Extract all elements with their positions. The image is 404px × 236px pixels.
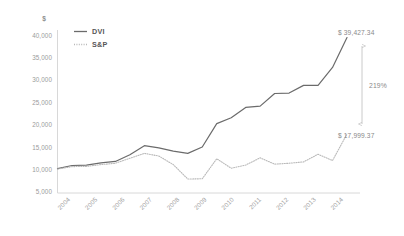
y-tick-label: 15,000 <box>32 144 52 151</box>
x-tick-label: 2013 <box>302 195 317 210</box>
difference-annotation: 219% <box>362 46 387 124</box>
sp-end-value-label: $ 17,999.37 <box>338 132 375 139</box>
x-tick-label: 2012 <box>274 195 289 210</box>
dvi-end-value-label: $ 39,427.34 <box>338 29 375 36</box>
difference-percent-label: 219% <box>369 82 387 89</box>
x-tick-label: 2007 <box>138 195 153 210</box>
x-tick-label: 2010 <box>220 195 235 210</box>
x-tick-label: 2011 <box>247 195 262 210</box>
legend-label-sp: S&P <box>92 40 107 49</box>
y-tick-label: 30,000 <box>32 76 52 83</box>
x-tick-label: 2008 <box>165 195 180 210</box>
chart-legend: DVI S&P <box>74 27 107 49</box>
y-tick-label: 40,000 <box>32 32 52 39</box>
y-axis-unit-label: $ <box>42 15 46 23</box>
x-tick-label: 2006 <box>111 195 126 210</box>
data-line-sp <box>58 134 348 179</box>
y-axis-ticks: 40,000 35,000 30,000 25,000 20,000 15,00… <box>32 32 52 196</box>
x-tick-label: 2014 <box>329 195 344 210</box>
x-tick-label: 2004 <box>56 195 71 210</box>
y-tick-label: 25,000 <box>32 99 52 106</box>
chart-container: $ 40,000 35,000 30,000 25,000 20,000 15,… <box>0 0 404 236</box>
y-tick-label: 10,000 <box>32 166 52 173</box>
x-tick-label: 2009 <box>193 195 208 210</box>
legend-label-dvi: DVI <box>92 27 105 36</box>
y-tick-label: 35,000 <box>32 54 52 61</box>
x-tick-label: 2005 <box>83 195 98 210</box>
y-tick-label: 5,000 <box>36 188 53 195</box>
x-axis-ticks: 2004 2005 2006 2007 2008 2009 2010 2011 … <box>56 195 344 210</box>
y-tick-label: 20,000 <box>32 121 52 128</box>
data-line-dvi <box>58 38 348 169</box>
